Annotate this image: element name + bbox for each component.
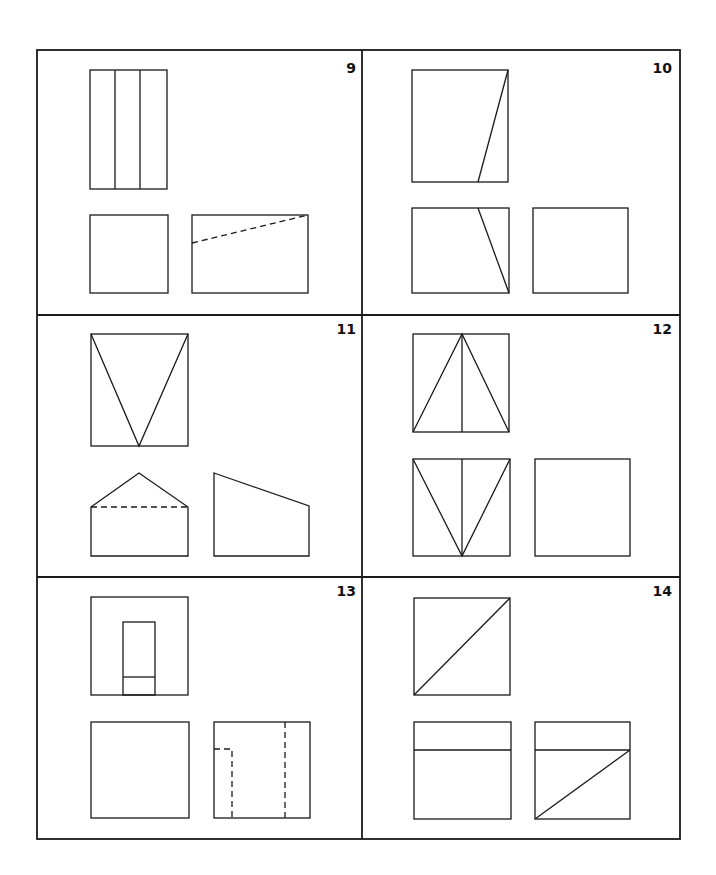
panel-12: 12 bbox=[413, 321, 672, 556]
panel-14: 14 bbox=[414, 583, 672, 819]
panel-10-front-view bbox=[412, 208, 509, 293]
panel-13: 13 bbox=[91, 583, 356, 818]
panel-9-top-view bbox=[90, 70, 167, 189]
panel-10-side-view bbox=[533, 208, 628, 293]
panel-number-11: 11 bbox=[337, 321, 356, 337]
panel-number-12: 12 bbox=[653, 321, 672, 337]
outer-border bbox=[37, 50, 680, 839]
panel-9: 9 bbox=[90, 60, 356, 293]
panel-9-front-view bbox=[90, 215, 168, 293]
panel-10-top-view bbox=[412, 70, 508, 182]
panel-10: 10 bbox=[412, 60, 672, 293]
panel-14-top-view bbox=[414, 598, 510, 695]
hidden-line bbox=[214, 749, 232, 818]
panel-number-9: 9 bbox=[346, 60, 356, 76]
panel-11-front-view bbox=[91, 473, 188, 556]
panel-11: 11 bbox=[91, 321, 356, 556]
panel-13-front-view bbox=[91, 722, 189, 818]
panel-12-side-view bbox=[535, 459, 630, 556]
hidden-line bbox=[192, 215, 308, 243]
panel-11-top-view bbox=[91, 334, 188, 446]
panel-11-side-view bbox=[214, 473, 309, 556]
grid-frame bbox=[37, 50, 680, 839]
panel-number-13: 13 bbox=[337, 583, 356, 599]
panel-14-front-view bbox=[414, 722, 511, 819]
panel-13-top-view bbox=[91, 597, 188, 695]
panel-12-top-view bbox=[413, 334, 509, 432]
panel-14-side-view bbox=[535, 722, 630, 819]
exercise-sheet: 9 10 11 bbox=[0, 0, 716, 875]
panel-number-10: 10 bbox=[653, 60, 673, 76]
panel-12-front-view bbox=[413, 459, 510, 556]
panel-number-14: 14 bbox=[653, 583, 673, 599]
panel-13-side-view bbox=[214, 722, 310, 818]
panel-9-side-view bbox=[192, 215, 308, 293]
